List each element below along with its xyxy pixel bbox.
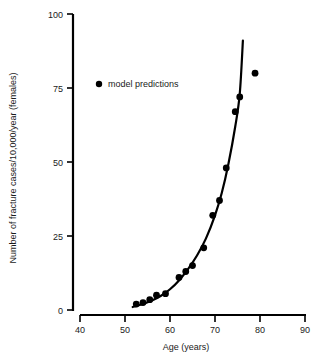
x-tick-label-90: 90 — [300, 325, 310, 335]
data-point — [252, 70, 259, 77]
data-point-group — [133, 70, 259, 308]
x-tick-label-60: 60 — [165, 325, 175, 335]
fracture-incidence-chart: 100 75 50 25 0 40 50 60 70 80 90 Age (ye… — [0, 0, 320, 355]
y-axis-title: Number of fracture cases/10,000/year (fe… — [8, 72, 18, 263]
x-axis-title: Age (years) — [163, 342, 210, 352]
x-tick-label-50: 50 — [120, 325, 130, 335]
y-tick-label-25: 25 — [53, 232, 63, 242]
chart-canvas: 100 75 50 25 0 40 50 60 70 80 90 Age (ye… — [0, 0, 320, 355]
y-tick-label-100: 100 — [48, 10, 63, 20]
x-tick-label-70: 70 — [210, 325, 220, 335]
legend-marker-icon — [96, 81, 102, 87]
y-tick-label-0: 0 — [58, 306, 63, 316]
y-tick-label-50: 50 — [53, 158, 63, 168]
x-tick-label-80: 80 — [255, 325, 265, 335]
x-tick-label-40: 40 — [75, 325, 85, 335]
y-tick-label-75: 75 — [53, 84, 63, 94]
legend-label-model-predictions: model predictions — [108, 79, 179, 89]
legend: model predictions — [96, 79, 179, 89]
